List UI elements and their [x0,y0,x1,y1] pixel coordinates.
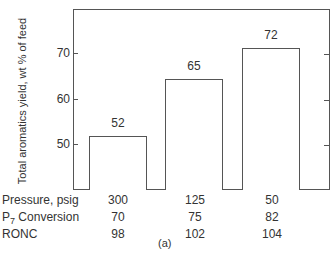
table-cell: 104 [247,227,297,241]
table-cell: 82 [247,210,297,224]
y-tick-label-70: 70 [48,46,70,60]
bar-value-label: 52 [88,116,148,130]
y-tick-left [73,53,78,54]
y-axis-label: Total aromatics yield, wt % of feed [16,1,28,201]
y-tick-right [324,145,329,146]
y-tick-left [73,99,78,100]
y-tick-label-50: 50 [48,137,70,151]
table-cell: 75 [170,210,220,224]
row-label-ronc: RONC [2,227,37,241]
bar-50-psig [242,48,300,190]
y-tick-right [324,100,329,101]
row-label-p7-conversion: P7 Conversion [2,210,79,226]
y-tick-right [324,54,329,55]
bar-125-psig [165,79,223,190]
figure-caption: (a) [158,237,171,249]
table-cell: 300 [93,193,143,207]
table-cell: 70 [93,210,143,224]
table-cell: 50 [247,193,297,207]
table-cell: 102 [170,227,220,241]
table-cell: 125 [170,193,220,207]
bar-300-psig [89,136,147,190]
bar-value-label: 65 [164,59,224,73]
bar-value-label: 72 [241,28,301,42]
y-tick-left [73,144,78,145]
table-cell: 98 [93,227,143,241]
row-label-pressure: Pressure, psig [2,193,79,207]
y-tick-label-60: 60 [48,92,70,106]
